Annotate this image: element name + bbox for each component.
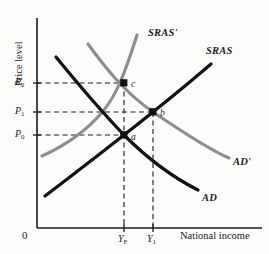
point-label-a: a [131,133,136,143]
curve-label-sras-prime: SRAS' [148,28,178,39]
x-tick-label-yf: YF [118,234,127,244]
curve-label-ad: AD [202,193,217,204]
y-tick-label-p2: P2 [15,77,25,87]
x-tick-label-y1: Y1 [147,234,156,244]
y-tick-label-p1: P1 [15,106,25,116]
point-label-b: b [160,109,165,119]
point-marker-b [149,108,156,115]
y-tick-label-p0-sub: 0 [21,133,25,141]
curve-label-sras: SRAS [206,46,233,57]
point-marker-a [120,131,127,138]
y-tick-label-p0: P0 [15,129,25,139]
curve-label-ad-prime: AD' [233,157,251,168]
y-tick-label-p2-sub: 2 [21,81,25,89]
point-label-c: c [131,80,135,90]
origin-label: 0 [22,230,28,241]
x-tick-label-yf-text: Y [118,233,124,244]
curve-sras [45,64,211,196]
x-tick-label-y1-sub: 1 [153,238,157,246]
x-tick-label-y1-text: Y [147,233,153,244]
point-marker-c [120,79,127,86]
y-tick-label-p1-sub: 1 [21,110,25,118]
x-tick-label-yf-sub: F [124,238,128,246]
ad-as-diagram: Price level National income 0 P2 P1 P0 Y… [0,0,269,254]
x-axis-title: National income [180,231,250,242]
chart-canvas [0,0,269,254]
